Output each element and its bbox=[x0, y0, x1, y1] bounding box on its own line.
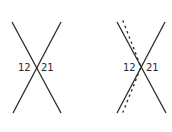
label-12: 12 bbox=[123, 62, 136, 73]
label-21: 21 bbox=[41, 62, 54, 73]
left-diagram: 12 21 bbox=[12, 22, 61, 113]
crossing-lines-figure: 12 21 12 21 bbox=[0, 0, 172, 132]
label-21: 21 bbox=[146, 62, 159, 73]
label-12: 12 bbox=[18, 62, 31, 73]
right-diagram: 12 21 bbox=[117, 21, 166, 113]
